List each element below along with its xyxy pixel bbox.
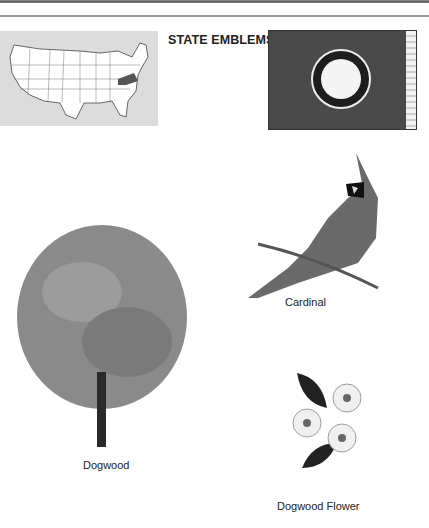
bird-label: Cardinal [285, 296, 326, 308]
cardinal-bird-icon [228, 148, 388, 308]
dogwood-tree-icon [12, 222, 192, 450]
top-rule [0, 0, 429, 3]
state-seal-icon [311, 49, 371, 109]
header-rule [0, 15, 429, 17]
flower-label: Dogwood Flower [277, 500, 360, 512]
page-title: STATE EMBLEMS [168, 33, 274, 47]
us-map-locator [0, 31, 158, 126]
state-flag [268, 30, 417, 130]
flag-fringe [406, 31, 416, 129]
tree-label: Dogwood [83, 459, 129, 471]
dogwood-flower-icon [282, 368, 382, 478]
us-map-icon [0, 31, 158, 126]
